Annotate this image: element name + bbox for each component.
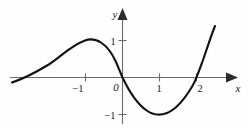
x-tick-label-2: 2 (197, 83, 202, 94)
y-axis-arrow-icon (118, 8, 128, 20)
x-axis-arrow-icon (226, 73, 238, 83)
x-axis-label: x (235, 82, 241, 94)
y-axis-label: y (112, 8, 118, 20)
y-tick-label-1: 1 (110, 36, 115, 47)
x-tick-label-1: 1 (156, 83, 161, 94)
x-tick-label-minus1: −1 (72, 83, 83, 94)
plot-canvas: −1 1 2 1 −1 0 y x (0, 0, 248, 130)
origin-label: 0 (113, 81, 119, 93)
y-tick-label-minus1: −1 (104, 110, 115, 121)
graph-figure: −1 1 2 1 −1 0 y x (0, 0, 248, 130)
